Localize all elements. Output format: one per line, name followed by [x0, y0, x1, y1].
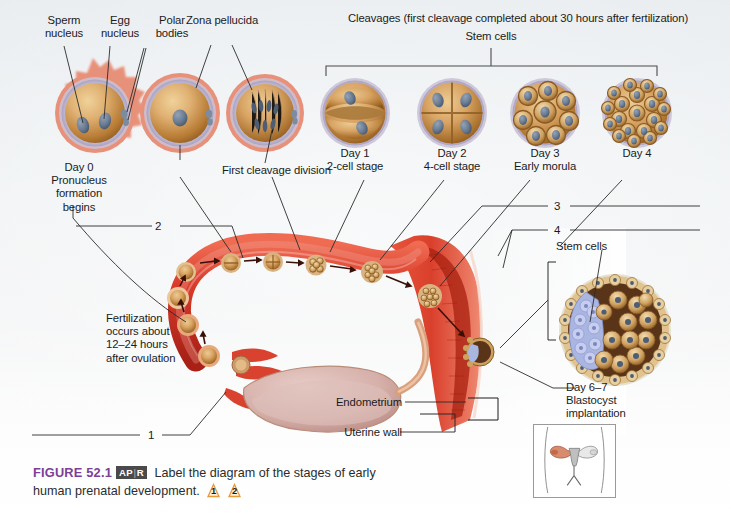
orientation-inset	[533, 424, 616, 498]
journey-embryo-morula-b	[361, 261, 383, 283]
module-flag-2-label: 2	[227, 483, 242, 498]
apr-badge[interactable]: AP|R	[116, 466, 147, 479]
apr-badge-r: R	[137, 467, 144, 478]
label-uterine-wall: Uterine wall	[330, 426, 402, 439]
label-day0-pronucleus: Day 0 Pronucleus formation begins	[39, 161, 119, 214]
apr-badge-ap: AP	[119, 467, 133, 478]
journey-embryo-4cell	[263, 252, 283, 272]
stage-4-cell-art	[417, 78, 487, 148]
label-day4: Day 4	[604, 147, 670, 160]
label-stem-cells-blastocyst: Stem cells	[556, 240, 607, 253]
leader-number-1: 1	[148, 429, 154, 441]
caption-line-1: Label the diagram of the stages of early	[151, 466, 376, 480]
leader-number-4: 4	[554, 224, 560, 236]
blastocyst-detail-art	[559, 274, 671, 386]
leader-number-2: 2	[155, 220, 161, 232]
label-first-cleavage-division: First cleavage division	[222, 164, 331, 177]
stage-first-cleavage-art	[226, 74, 304, 152]
label-day1-2-cell: Day 1 2-cell stage	[317, 147, 393, 173]
label-egg-nucleus: Egg nucleus	[92, 14, 148, 40]
figure-number: FIGURE 52.1	[33, 465, 112, 480]
journey-ovum-1	[198, 345, 220, 367]
top-callout-leaders	[64, 45, 272, 163]
orientation-inset-art	[534, 425, 615, 497]
figure-caption: FIGURE 52.1AP|R Label the diagram of the…	[33, 464, 453, 500]
module-flag-1-label: 1	[206, 483, 221, 498]
reproductive-tract-illustration	[179, 228, 626, 434]
stage-zygote-day0-art	[55, 58, 147, 153]
journey-blastocyst-implanting	[463, 337, 494, 367]
label-endometrium: Endometrium	[330, 396, 402, 409]
journey-ovum-2	[177, 314, 199, 336]
caption-line-2: human prenatal development.	[33, 484, 203, 498]
label-stem-cells-top: Stem cells	[441, 30, 541, 43]
label-cleavages-title: Cleavages (first cleavage completed abou…	[318, 12, 718, 25]
figure-artwork	[0, 0, 730, 524]
label-day3-early-morula: Day 3 Early morula	[498, 147, 592, 173]
journey-ovum-3	[167, 287, 189, 309]
journey-embryo-morula-a	[306, 255, 327, 276]
journey-embryo-blastocyst-free	[418, 284, 442, 308]
paper-background	[0, 0, 730, 524]
stage-pronucleus-art	[140, 73, 220, 153]
figure-52-1: Sperm nucleus Egg nucleus Polar bodies Z…	[0, 0, 730, 524]
module-flag-1[interactable]: 1	[206, 483, 221, 498]
cleavage-bracket	[326, 48, 657, 76]
label-zona-pellucida: Zona pellucida	[186, 14, 258, 27]
leader-number-3: 3	[554, 200, 560, 212]
label-day2-4-cell: Day 2 4-cell stage	[413, 147, 491, 173]
label-fertilization-note: Fertilization occurs about 12–24 hours a…	[106, 312, 175, 365]
embryo-journey	[167, 252, 494, 367]
stage-2-cell-art	[320, 78, 390, 148]
stage-morula-day4-art	[602, 78, 673, 148]
label-sperm-nucleus: Sperm nucleus	[33, 14, 95, 40]
journey-embryo-2cell	[221, 253, 241, 273]
stage-early-morula-art	[510, 78, 580, 148]
label-day6-7-blastocyst: Day 6–7 Blastocyst implantation	[566, 381, 626, 421]
journey-ovum-4	[176, 262, 196, 282]
module-flag-2[interactable]: 2	[227, 483, 242, 498]
